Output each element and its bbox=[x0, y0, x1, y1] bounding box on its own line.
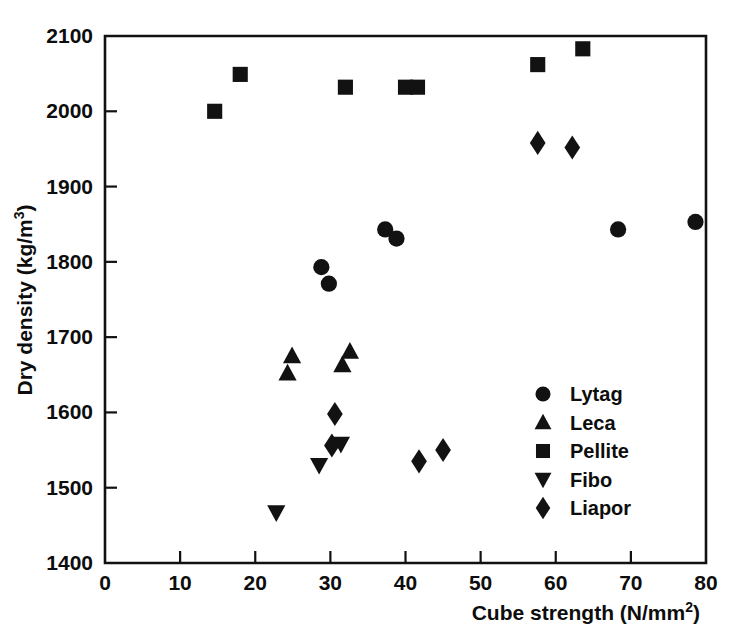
chart-canvas: 14001500160017001800190020002100 0102030… bbox=[0, 0, 739, 634]
series-leca bbox=[278, 342, 359, 380]
point-fibo-0 bbox=[267, 505, 285, 522]
y-axis-tick-labels: 14001500160017001800190020002100 bbox=[46, 24, 93, 574]
plot-frame bbox=[105, 36, 706, 563]
x-axis-title-superscript: 2 bbox=[685, 599, 693, 615]
y-axis-title-text: Dry density (kg/m bbox=[13, 219, 36, 395]
point-liapor-2 bbox=[411, 449, 427, 473]
svg-text:Dry density (kg/m3): Dry density (kg/m3) bbox=[11, 204, 36, 395]
chart-legend: LytagLecaPelliteFiboLiapor bbox=[535, 383, 632, 519]
x-tick-label-60: 60 bbox=[544, 571, 567, 594]
point-lytag-1 bbox=[321, 276, 337, 292]
point-pellite-5 bbox=[530, 57, 545, 72]
point-fibo-1 bbox=[310, 458, 328, 475]
data-markers bbox=[207, 41, 703, 522]
x-axis-title-text: Cube strength (N/mm bbox=[472, 601, 686, 624]
point-leca-0 bbox=[283, 347, 301, 364]
y-tick-label-1600: 1600 bbox=[46, 400, 93, 423]
y-tick-label-2000: 2000 bbox=[46, 99, 93, 122]
x-tick-label-40: 40 bbox=[394, 571, 417, 594]
y-tick-label-1400: 1400 bbox=[46, 551, 93, 574]
x-axis-title: Cube strength (N/mm2) bbox=[472, 599, 700, 624]
legend-marker-pellite bbox=[536, 444, 550, 458]
legend-label-leca: Leca bbox=[570, 412, 616, 434]
x-tick-label-30: 30 bbox=[319, 571, 342, 594]
point-lytag-4 bbox=[610, 221, 626, 237]
y-tick-label-1900: 1900 bbox=[46, 175, 93, 198]
point-liapor-3 bbox=[435, 438, 451, 462]
axes-border bbox=[105, 36, 706, 563]
y-axis-title-close: ) bbox=[13, 204, 36, 211]
y-axis-ticks bbox=[105, 111, 117, 487]
point-liapor-0 bbox=[327, 402, 343, 426]
legend-marker-liapor bbox=[536, 497, 551, 519]
series-pellite bbox=[207, 41, 590, 119]
x-tick-label-70: 70 bbox=[619, 571, 642, 594]
point-pellite-1 bbox=[233, 67, 248, 82]
series-lytag bbox=[313, 214, 703, 292]
point-leca-1 bbox=[278, 364, 296, 381]
point-leca-2 bbox=[341, 342, 359, 359]
legend-label-lytag: Lytag bbox=[570, 383, 623, 405]
point-pellite-4 bbox=[410, 80, 425, 95]
y-tick-label-1500: 1500 bbox=[46, 476, 93, 499]
y-axis-title: Dry density (kg/m3) bbox=[11, 204, 36, 395]
x-axis-ticks bbox=[180, 551, 631, 563]
point-lytag-0 bbox=[313, 259, 329, 275]
svg-text:Cube strength (N/mm2): Cube strength (N/mm2) bbox=[472, 599, 700, 624]
y-axis-title-superscript: 3 bbox=[11, 211, 27, 219]
legend-label-fibo: Fibo bbox=[570, 469, 612, 491]
legend-marker-fibo bbox=[535, 473, 552, 488]
point-lytag-3 bbox=[388, 230, 404, 246]
legend-label-pellite: Pellite bbox=[570, 440, 629, 462]
x-tick-label-0: 0 bbox=[99, 571, 111, 594]
point-liapor-5 bbox=[564, 135, 580, 159]
point-liapor-4 bbox=[530, 131, 546, 155]
x-tick-label-50: 50 bbox=[469, 571, 492, 594]
x-tick-label-10: 10 bbox=[168, 571, 191, 594]
point-pellite-2 bbox=[338, 80, 353, 95]
scatter-chart-figure: 14001500160017001800190020002100 0102030… bbox=[0, 0, 739, 634]
y-tick-label-1700: 1700 bbox=[46, 325, 93, 348]
legend-marker-lytag bbox=[535, 386, 550, 401]
series-fibo bbox=[267, 437, 350, 522]
point-pellite-6 bbox=[575, 41, 590, 56]
x-tick-label-20: 20 bbox=[244, 571, 267, 594]
point-lytag-5 bbox=[687, 214, 703, 230]
legend-label-liapor: Liapor bbox=[570, 497, 631, 519]
x-tick-label-80: 80 bbox=[694, 571, 717, 594]
y-tick-label-2100: 2100 bbox=[46, 24, 93, 47]
legend-marker-leca bbox=[535, 414, 552, 429]
point-pellite-0 bbox=[207, 104, 222, 119]
x-axis-tick-labels: 01020304050607080 bbox=[99, 571, 718, 594]
y-tick-label-1800: 1800 bbox=[46, 250, 93, 273]
x-axis-title-close: ) bbox=[693, 601, 700, 624]
